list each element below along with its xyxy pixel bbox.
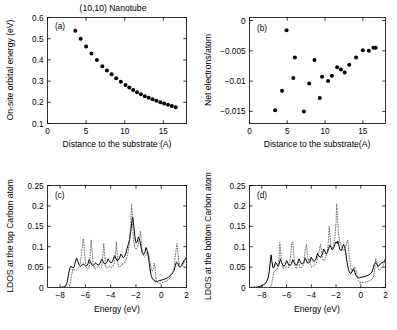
panel-c-ylabel: LDOS at the top Carbon atom bbox=[5, 179, 15, 293]
panel-a-ticks: 0510150.10.20.30.40.50.6 bbox=[32, 14, 186, 136]
y-tick-label: 0 bbox=[241, 284, 246, 293]
curve-solid-ldos-top bbox=[48, 217, 187, 287]
y-tick-label: 0.2 bbox=[32, 98, 44, 107]
panel-d-plot: −8−6−4−20200.050.10.150.20.25 (d) Energy… bbox=[199, 166, 397, 330]
panel-b-axes bbox=[250, 18, 386, 124]
x-tick-label: −6 bbox=[81, 291, 91, 300]
panel-a-axes bbox=[48, 18, 187, 124]
panel-b-ylabel: Net electrons/atom bbox=[203, 34, 213, 106]
data-point bbox=[339, 68, 343, 72]
y-tick-label: 0.2 bbox=[32, 202, 44, 211]
data-point bbox=[143, 94, 147, 98]
panel-b-label: (b) bbox=[257, 24, 267, 33]
y-tick-label: 0.4 bbox=[32, 56, 44, 65]
x-tick-label: 2 bbox=[184, 291, 189, 300]
data-point bbox=[158, 100, 162, 104]
data-point bbox=[84, 45, 88, 49]
data-point bbox=[151, 97, 155, 101]
y-tick-label: 0.2 bbox=[234, 202, 246, 211]
data-point bbox=[326, 79, 330, 83]
data-point bbox=[139, 92, 143, 96]
y-tick-label: 0.05 bbox=[28, 263, 44, 272]
data-point bbox=[110, 72, 114, 76]
curve-dotted-ldos-isolated bbox=[250, 204, 386, 288]
data-point bbox=[293, 55, 297, 59]
panel-c-curves bbox=[48, 204, 187, 288]
data-point bbox=[90, 52, 94, 56]
x-tick-label: −2 bbox=[331, 291, 341, 300]
y-tick-label: 0.5 bbox=[32, 35, 44, 44]
data-point bbox=[343, 71, 347, 75]
curve-solid-ldos-bottom bbox=[250, 241, 386, 288]
data-point bbox=[131, 88, 135, 92]
figure-container: (10,10) Nanotube 0510150.10.20.30.40.50.… bbox=[0, 0, 397, 330]
data-point bbox=[330, 74, 334, 78]
y-tick-label: 0.25 bbox=[28, 182, 44, 191]
panel-d: −8−6−4−20200.050.10.150.20.25 (d) Energy… bbox=[199, 166, 397, 330]
data-point bbox=[354, 55, 358, 59]
data-point bbox=[166, 103, 170, 107]
data-point bbox=[291, 76, 295, 80]
data-point bbox=[312, 58, 316, 62]
x-tick-label: 0 bbox=[358, 291, 363, 300]
y-tick-label: 0.6 bbox=[32, 14, 44, 23]
data-point bbox=[347, 63, 351, 67]
data-point bbox=[123, 83, 127, 87]
panel-d-curves bbox=[250, 204, 386, 288]
panel-a-plot: (10,10) Nanotube 0510150.10.20.30.40.50.… bbox=[0, 0, 199, 166]
y-tick-label: 0.25 bbox=[230, 182, 246, 191]
y-tick-label: 0.3 bbox=[32, 77, 44, 86]
y-tick-label: 0.1 bbox=[32, 120, 44, 129]
y-tick-label: 0.15 bbox=[28, 222, 44, 231]
panel-b-xlabel: Distance to the substrate(A) bbox=[264, 139, 371, 149]
x-tick-label: 10 bbox=[321, 127, 331, 136]
data-point bbox=[374, 46, 378, 50]
panel-d-ticks: −8−6−4−20200.050.10.150.20.25 bbox=[230, 182, 389, 300]
data-point bbox=[307, 82, 311, 86]
x-tick-label: −4 bbox=[106, 291, 116, 300]
panel-b-ticks: 0510150−0.005−0.01−0.015 bbox=[220, 17, 385, 136]
data-point bbox=[135, 90, 139, 94]
y-tick-label: 0.1 bbox=[32, 243, 44, 252]
y-tick-label: −0.01 bbox=[225, 77, 246, 86]
data-point bbox=[147, 96, 151, 100]
panel-d-ylabel: LDOS at the bottom Carbon atom bbox=[203, 172, 213, 300]
data-point bbox=[170, 104, 174, 108]
data-point bbox=[361, 48, 365, 52]
data-point bbox=[302, 109, 306, 113]
x-tick-label: −6 bbox=[282, 291, 292, 300]
data-point bbox=[100, 64, 104, 68]
y-tick-label: −0.005 bbox=[220, 47, 246, 56]
x-tick-label: 10 bbox=[120, 127, 130, 136]
x-tick-label: −4 bbox=[307, 291, 317, 300]
y-tick-label: 0 bbox=[39, 284, 44, 293]
panel-c-xlabel: Energy (eV) bbox=[94, 304, 140, 314]
x-tick-label: 0 bbox=[159, 291, 164, 300]
panel-a-ylabel: On-site orbital energy (eV) bbox=[5, 19, 15, 120]
y-tick-label: 0.1 bbox=[234, 243, 246, 252]
panel-b-plot: 0510150−0.005−0.01−0.015 (b) Distance to… bbox=[199, 0, 397, 166]
y-tick-label: 0 bbox=[241, 17, 246, 26]
panel-a-points bbox=[73, 29, 177, 110]
panel-b-points bbox=[273, 28, 377, 113]
x-tick-label: −8 bbox=[55, 291, 65, 300]
data-point bbox=[273, 108, 277, 112]
x-tick-label: −2 bbox=[131, 291, 141, 300]
x-tick-label: 0 bbox=[247, 127, 252, 136]
x-tick-label: 15 bbox=[358, 127, 368, 136]
panel-a: (10,10) Nanotube 0510150.10.20.30.40.50.… bbox=[0, 0, 199, 166]
data-point bbox=[320, 75, 324, 79]
panel-d-xlabel: Energy (eV) bbox=[294, 304, 340, 314]
data-point bbox=[335, 65, 339, 69]
x-tick-label: 5 bbox=[285, 127, 290, 136]
panel-a-label: (a) bbox=[55, 22, 65, 31]
figure-title: (10,10) Nanotube bbox=[80, 3, 147, 13]
data-point bbox=[79, 37, 83, 41]
data-point bbox=[280, 89, 284, 93]
x-tick-label: 2 bbox=[383, 291, 388, 300]
panel-c-plot: −8−6−4−20200.050.10.150.20.25 (c) Energy… bbox=[0, 166, 199, 330]
y-tick-label: 0.15 bbox=[230, 222, 246, 231]
x-tick-label: −8 bbox=[257, 291, 267, 300]
x-tick-label: 15 bbox=[159, 127, 169, 136]
data-point bbox=[127, 85, 131, 89]
